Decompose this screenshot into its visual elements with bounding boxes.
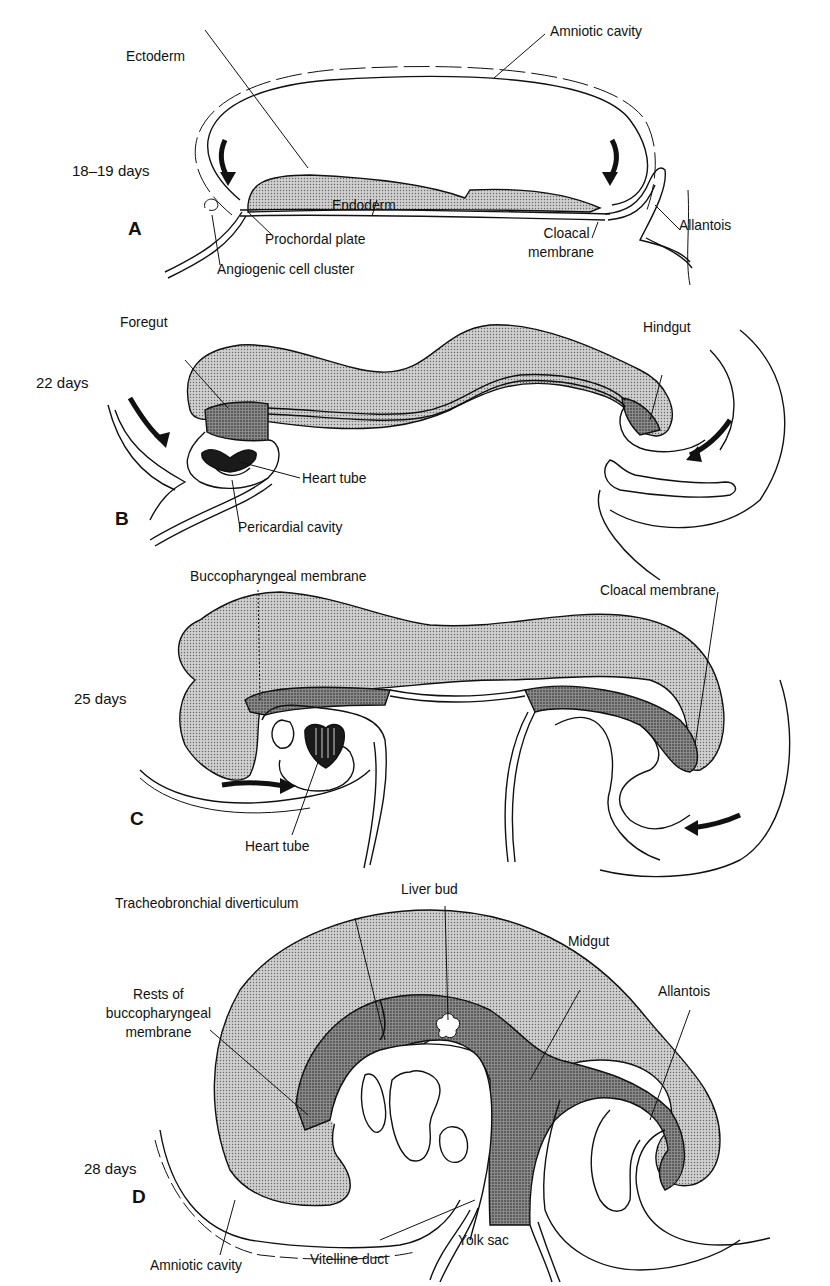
allantois-tube <box>605 460 736 497</box>
panel-letter-b: B <box>115 508 129 530</box>
label-buccopharyngeal-membrane: Buccopharyngeal membrane <box>190 567 366 584</box>
angiogenic-cluster <box>204 199 217 210</box>
gut-roof <box>390 690 525 702</box>
foregut-endoderm <box>205 402 268 441</box>
label-cloacal-line2: membrane <box>528 243 594 260</box>
heart-tube-shape <box>305 725 344 769</box>
age-label-a: 18–19 days <box>72 162 150 179</box>
label-pericardial-cavity: Pericardial cavity <box>238 518 342 535</box>
arrow-head-right <box>602 172 618 186</box>
label-liver-bud: Liver bud <box>401 880 458 897</box>
label-heart-tube-b: Heart tube <box>302 469 366 486</box>
label-angiogenic-cell-cluster: Angiogenic cell cluster <box>217 260 354 277</box>
label-allantois-d: Allantois <box>658 982 710 999</box>
yolk-sac-right <box>598 490 660 580</box>
label-endoderm: Endoderm <box>332 196 396 213</box>
allantois-curl <box>591 1110 640 1211</box>
endoderm-dense-right <box>525 686 697 772</box>
label-ectoderm: Ectoderm <box>126 47 185 64</box>
arrow-head-c-right <box>684 820 698 836</box>
label-allantois-a: Allantois <box>679 216 731 233</box>
age-label-d: 28 days <box>84 1160 137 1177</box>
label-hindgut: Hindgut <box>643 318 691 335</box>
arrow-head-c-left <box>280 778 296 794</box>
right-yolk-wall <box>605 168 690 262</box>
allantois-line <box>688 190 690 285</box>
label-cloacal-line1: Cloacal <box>528 224 594 241</box>
label-rests-line3: membrane <box>94 1023 223 1040</box>
arrow-head-left <box>220 172 236 186</box>
ectoderm-shape <box>179 592 724 780</box>
outer-body-left <box>140 770 370 803</box>
age-label-b: 22 days <box>36 374 89 391</box>
label-foregut: Foregut <box>120 313 168 330</box>
label-amniotic-cavity-a: Amniotic cavity <box>550 22 642 39</box>
panel-a <box>160 30 692 370</box>
heart-tube-shape <box>202 450 256 472</box>
ectoderm-shape <box>248 175 600 212</box>
arrow-right-icon <box>222 783 285 786</box>
label-cloacal-membrane-c: Cloacal membrane <box>600 581 716 598</box>
label-tracheobronchial-diverticulum: Tracheobronchial diverticulum <box>115 894 299 911</box>
hindgut-wall <box>505 712 535 862</box>
age-label-c: 25 days <box>74 690 127 707</box>
label-rests-line1: Rests of <box>94 985 223 1002</box>
panel-c <box>140 590 790 877</box>
endoderm-bottom <box>240 215 605 220</box>
label-heart-tube-c: Heart tube <box>245 837 309 854</box>
foregut-wall <box>364 742 376 868</box>
yolk-wall-left-2 <box>155 484 272 546</box>
panel-letter-d: D <box>132 1186 146 1208</box>
inner-curl <box>555 717 660 860</box>
label-yolk-sac: Yolk sac <box>458 1231 509 1248</box>
label-vitelline-duct: Vitelline duct <box>310 1250 388 1267</box>
label-rests-of-buccopharyngeal-membrane: Rests of buccopharyngeal membrane <box>94 985 223 1040</box>
panel-letter-a: A <box>128 218 142 240</box>
label-midgut: Midgut <box>568 932 609 949</box>
label-prochordal-plate: Prochordal plate <box>265 230 365 247</box>
panel-d <box>155 906 770 1282</box>
embryo-folding-diagram <box>0 0 830 1286</box>
arrow-left-icon <box>692 815 740 828</box>
arrow-left-icon <box>130 398 162 440</box>
label-rests-line2: buccopharyngeal <box>94 1004 223 1021</box>
label-amniotic-cavity-d: Amniotic cavity <box>150 1256 242 1273</box>
panel-letter-c: C <box>130 808 144 830</box>
panel-b <box>108 325 785 580</box>
vesicle <box>272 720 294 748</box>
endoderm-dense-left <box>245 687 390 715</box>
label-cloacal-membrane-a: Cloacal membrane <box>528 224 594 260</box>
